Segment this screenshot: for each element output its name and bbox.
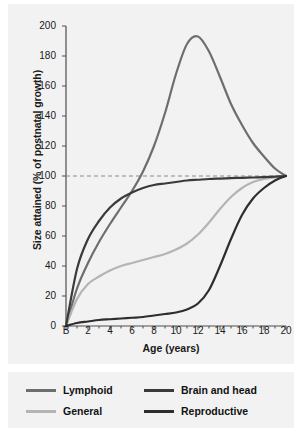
x-tick-label: 8 [142, 326, 166, 336]
x-tick-label: 20 [274, 326, 298, 336]
chart-screenshot: Size attained (% of postnatal growth) 02… [0, 0, 300, 432]
legend-grid: LymphoidBrain and headGeneralReproductiv… [26, 384, 288, 417]
legend-label: Brain and head [181, 384, 257, 396]
curve-reproductive [66, 176, 286, 326]
x-tick-label: 2 [76, 326, 100, 336]
legend-label: Reproductive [181, 405, 248, 417]
legend-label: General [63, 405, 102, 417]
x-tick-label: B [54, 326, 78, 336]
legend-swatch-icon [26, 389, 56, 392]
x-axis-ticks: B2468101214161820 [8, 326, 294, 340]
chart-panel: Size attained (% of postnatal growth) 02… [8, 4, 294, 364]
legend-item[interactable]: General [26, 405, 144, 417]
chart-legend: LymphoidBrain and headGeneralReproductiv… [8, 372, 294, 428]
legend-swatch-icon [26, 410, 56, 413]
legend-item[interactable]: Reproductive [144, 405, 284, 417]
x-tick-label: 14 [208, 326, 232, 336]
x-tick-label: 16 [230, 326, 254, 336]
data-curves [66, 36, 286, 326]
x-tick-label: 12 [186, 326, 210, 336]
legend-swatch-icon [144, 410, 174, 413]
plot-svg [8, 4, 294, 364]
x-axis-label: Age (years) [58, 342, 284, 354]
x-tick-label: 4 [98, 326, 122, 336]
x-tick-label: 6 [120, 326, 144, 336]
x-tick-label: 10 [164, 326, 188, 336]
legend-swatch-icon [144, 389, 174, 392]
plot-container: Size attained (% of postnatal growth) 02… [8, 4, 294, 364]
legend-label: Lymphoid [63, 384, 113, 396]
legend-item[interactable]: Brain and head [144, 384, 284, 396]
legend-item[interactable]: Lymphoid [26, 384, 144, 396]
x-tick-label: 18 [252, 326, 276, 336]
